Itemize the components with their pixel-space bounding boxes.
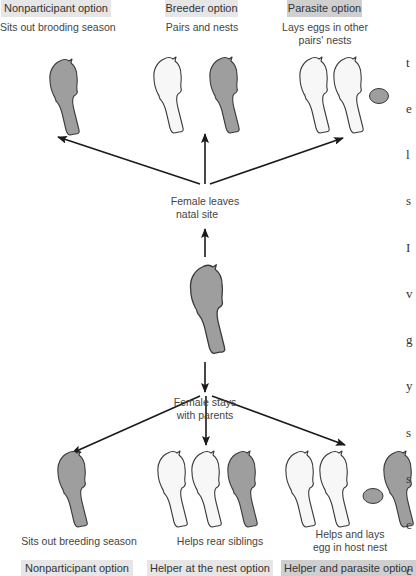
top-breeder-bird-group [154, 57, 239, 133]
top-parasite-option-label: Parasite option [287, 0, 362, 17]
edge-char: s [406, 425, 413, 440]
bird-other-icon [286, 451, 315, 527]
female-stays-label-line2: with parents [155, 409, 255, 422]
bottom-helper-bird-group [158, 451, 257, 527]
top-nonparticipant-option-label: Nonparticipant option [1, 0, 111, 17]
top-parasite-bird-group [300, 57, 389, 133]
bottom-helper-parasite-caption-line1: Helps and lays [300, 528, 400, 541]
top-parasite-caption-line2: pairs' nests [280, 34, 370, 47]
edge-char: s [406, 193, 413, 208]
top-nonparticipant-bird-group [50, 59, 79, 135]
bird-focal-icon [58, 451, 87, 527]
bird-focal-icon [228, 451, 257, 527]
bird-other-icon [158, 451, 187, 527]
edge-char: c [406, 517, 413, 532]
bird-other-icon [300, 57, 329, 133]
bottom-nonparticipant-bird-group [58, 451, 87, 527]
top-nonparticipant-caption: Sits out brooding season [0, 21, 114, 34]
edge-char: g [406, 332, 413, 347]
cropped-edge-text: t e l s I v g y s s c c c s i 1 r I I r … [406, 24, 413, 576]
bottom-helper-caption: Helps rear siblings [170, 535, 270, 548]
female-leaves-label-line1: Female leaves [155, 195, 255, 208]
bottom-nonparticipant-caption: Sits out breeding season [16, 535, 142, 548]
edge-char: e [406, 101, 413, 116]
edge-char: t [406, 55, 413, 70]
bird-other-icon [154, 57, 183, 133]
top-breeder-option-label: Breeder option [165, 0, 238, 17]
edge-char: s [406, 471, 413, 486]
bottom-helper-parasite-caption-line2: egg in host nest [300, 541, 400, 554]
egg-icon [363, 489, 383, 504]
edge-char: c [406, 563, 413, 576]
top-parasite-caption-line1: Lays eggs in other [280, 21, 370, 34]
top-arrows [58, 134, 343, 184]
arrow-to-nonparticipant-icon [58, 137, 200, 184]
bottom-helper-option-label: Helper at the nest option [147, 560, 273, 576]
central-bird-focal-icon [190, 265, 224, 354]
top-breeder-caption: Pairs and nests [160, 21, 244, 34]
bottom-helper-parasite-bird-group [286, 451, 413, 527]
bird-focal-icon [210, 57, 239, 133]
arrow-to-parasite-icon [210, 138, 343, 184]
edge-char: I [406, 240, 413, 255]
edge-char: y [406, 378, 413, 393]
egg-icon [370, 89, 389, 104]
edge-char: l [406, 147, 413, 162]
bird-other-icon [334, 57, 363, 133]
edge-char: v [406, 286, 413, 301]
female-stays-label-line1: Female stays [155, 396, 255, 409]
bottom-nonparticipant-option-label: Nonparticipant option [21, 560, 133, 576]
bottom-helper-parasite-option-label: Helper and parasite option [281, 560, 416, 576]
bird-other-icon [320, 451, 349, 527]
diagram-canvas [0, 0, 416, 576]
bird-other-icon [192, 451, 221, 527]
bird-focal-icon [50, 59, 79, 135]
female-leaves-label-line2: natal site [147, 208, 247, 221]
